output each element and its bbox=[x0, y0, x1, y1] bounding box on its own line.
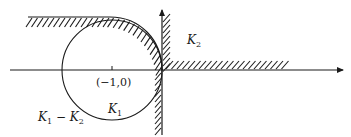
k2-vertical-hatching bbox=[163, 14, 170, 72]
k2-label: K2 bbox=[186, 33, 201, 49]
k1-minus-k2-label: K1 − K2 bbox=[37, 110, 84, 126]
upper-boundary-curve bbox=[28, 17, 162, 70]
k1-label: K1 bbox=[107, 102, 122, 118]
k2-horizontal-hatching bbox=[166, 61, 289, 69]
circle-criterion-diagram: (−1,0) K2 K1 K1 − K2 bbox=[0, 0, 351, 137]
arc-hatching bbox=[108, 18, 162, 75]
critical-point-label: (−1,0) bbox=[96, 76, 131, 89]
